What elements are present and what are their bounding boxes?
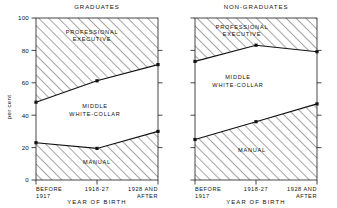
stacked-area-chart-pair: GRADUATES [0,0,337,208]
xtick-label-3-line1-right: 1928 AND [287,186,317,192]
band-label-professional-line2: EXECUTIVE [73,36,111,42]
xtick-label-3-line2-right: AFTER [296,193,317,199]
marker-manual-right-p2 [254,120,257,123]
ytick-label-60: 60 [22,79,30,86]
panel-graduates: GRADUATES [5,3,160,205]
left-plot-bands [36,18,158,180]
ytick-label-0: 0 [25,176,29,183]
panel-non-graduates: NON-GRADUATES [158,3,322,205]
xtick-label-3-line1: 1928 AND [128,186,158,192]
ytick-label-40: 40 [22,112,30,119]
marker-wc-left-p2 [95,79,98,82]
band-label-middle-line1: MIDDLE [82,103,108,109]
marker-manual-left-p2 [95,147,98,150]
xtick-label-1-line1-right: BEFORE [195,186,221,192]
figure-container: GRADUATES [0,0,337,208]
x-axis-title-right: YEAR OF BIRTH [226,199,285,205]
band-label-middle-line1-right: MIDDLE [225,74,251,80]
panel-title-graduates: GRADUATES [74,3,120,10]
band-label-professional-line1: PROFESSIONAL [66,29,119,35]
xtick-label-2-line1: 1918-27 [85,186,109,192]
panel-title-non-graduates: NON-GRADUATES [224,3,289,10]
y-axis-title: per cent [5,95,12,119]
ytick-label-20: 20 [22,144,30,151]
xtick-label-2-line1-right: 1918-27 [244,186,268,192]
x-axis-title-left: YEAR OF BIRTH [67,199,126,205]
band-label-middle-line2-right: WHITE-COLLAR [212,82,263,88]
xtick-label-1-line2-right: 1917 [195,193,210,199]
ytick-label-80: 80 [22,47,30,54]
band-label-professional-line2-right: EXECUTIVE [223,31,261,37]
band-label-manual-right: MANUAL [238,147,266,153]
marker-wc-right-p2 [254,44,257,47]
xtick-label-1-line1: BEFORE [36,186,62,192]
xtick-label-1-line2: 1917 [36,193,51,199]
band-label-professional-line1-right: PROFESSIONAL [216,24,269,30]
ytick-label-100: 100 [18,14,29,21]
right-plot-bands [195,18,317,180]
band-label-middle-line2: WHITE-COLLAR [69,111,120,117]
band-label-manual-left: MANUAL [83,159,111,165]
xtick-label-3-line2: AFTER [137,193,158,199]
